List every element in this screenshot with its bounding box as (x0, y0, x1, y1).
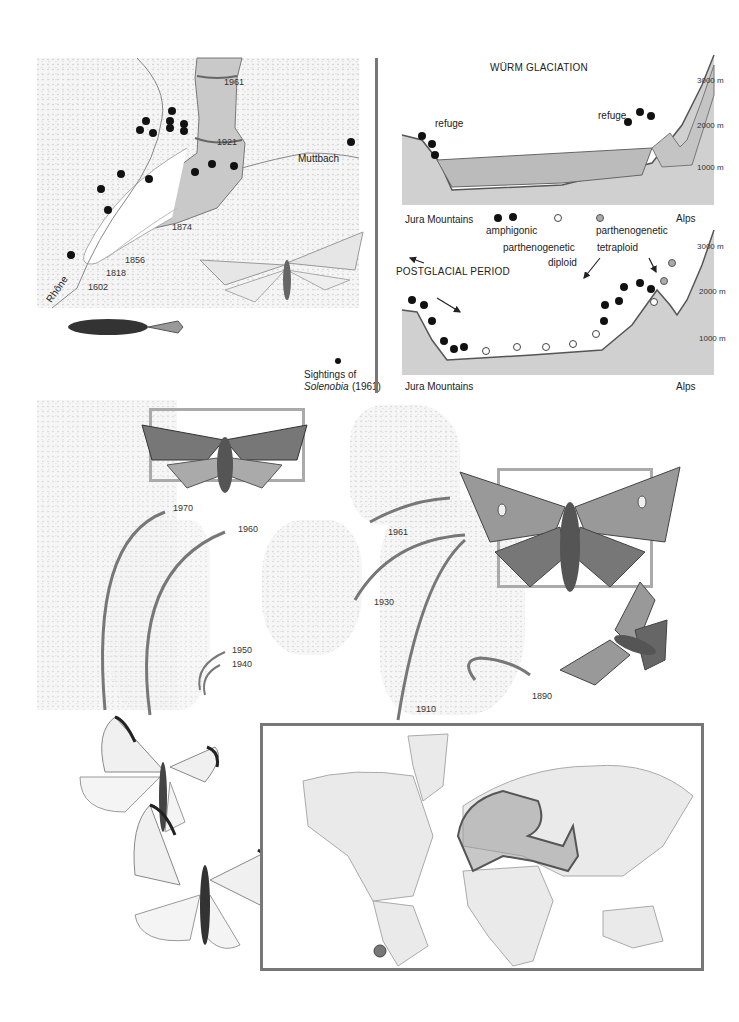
legend-tetraploid-circle (596, 214, 604, 222)
amphigonic-male (408, 296, 416, 304)
tetraploid-circle (660, 277, 668, 285)
britain-year-1890: 1890 (532, 691, 552, 701)
amphigonic-female (601, 301, 609, 309)
wurm-profile (402, 55, 714, 205)
postglacial-tick-1000: 1000 m (699, 334, 726, 343)
amphigonic-female (440, 337, 448, 345)
continent-year-1950: 1950 (232, 645, 252, 655)
glacier-year-1602: 1602 (88, 282, 108, 292)
amphigonic-male (450, 345, 458, 353)
glacier-year-1818: 1818 (106, 268, 126, 278)
wurm-right-region: Alps (676, 213, 695, 224)
legend-amphigonic-female (509, 213, 517, 221)
postglacial-tick-3000: 3000 m (697, 242, 724, 251)
amphigonic-male (428, 317, 436, 325)
postglacial-right-region: Alps (676, 381, 695, 392)
ireland-map (262, 520, 362, 655)
patterned-moth (137, 420, 312, 495)
sighting-dot (166, 124, 174, 132)
britain-year-1930: 1930 (374, 597, 394, 607)
continent-year-1960: 1960 (238, 524, 258, 534)
amphigonic-female (418, 132, 426, 140)
sighting-dot (97, 185, 105, 193)
wurm-tick-1000: 1000 m (697, 163, 724, 172)
wurm-tick-2000: 2000 m (697, 121, 724, 130)
legend-dot (335, 358, 341, 364)
sighting-dot (67, 251, 75, 259)
britain-year-1961: 1961 (388, 527, 408, 537)
postglacial-left-region: Jura Mountains (405, 381, 473, 392)
sighting-dot (145, 175, 153, 183)
refuge-right-label: refuge (598, 110, 626, 121)
diploid-circle (482, 347, 490, 355)
amphigonic-male (428, 140, 436, 148)
sighting-dot (149, 129, 157, 137)
postglacial-profile (402, 230, 714, 375)
postglacial-tick-2000: 2000 m (699, 287, 726, 296)
continent-year-1970: 1970 (173, 503, 193, 513)
diploid-circle (513, 343, 521, 351)
diploid-circle (569, 340, 577, 348)
sighting-dot (142, 117, 150, 125)
amphigonic-male (647, 112, 655, 120)
white-butterfly-2 (120, 795, 280, 955)
amphigonic-male (624, 118, 632, 126)
sighting-dot (347, 138, 355, 146)
sighting-dot (117, 170, 125, 178)
world-map (263, 726, 701, 968)
brown-moth-side (555, 580, 675, 690)
amphigonic-female (431, 151, 439, 159)
stream-label: Muttbach (298, 153, 339, 164)
amphigonic-female (620, 283, 628, 291)
glacier-year-1856: 1856 (125, 255, 145, 265)
sighting-dot (208, 160, 216, 168)
amphigonic-male (636, 279, 644, 287)
legend-line1: Sightings of (304, 369, 356, 380)
sighting-dot (136, 126, 144, 134)
wurm-left-region: Jura Mountains (405, 214, 473, 225)
amphigonic-female (636, 108, 644, 116)
sighting-dot (180, 127, 188, 135)
diploid-circle (542, 343, 550, 351)
glacier-year-1961: 1961 (224, 77, 244, 87)
sighting-dot (191, 168, 199, 176)
panel-divider (375, 58, 378, 393)
legend-diploid-circle (554, 214, 562, 222)
legend-amphigonic-male (494, 214, 502, 222)
continent-spread-arcs (70, 500, 250, 720)
moth-illustration (195, 230, 365, 310)
continent-year-1940: 1940 (232, 659, 252, 669)
britain-year-1910: 1910 (416, 704, 436, 714)
sighting-dot (168, 107, 176, 115)
caterpillar-illustration (68, 315, 188, 340)
amphigonic-male (615, 297, 623, 305)
glacier-year-1874: 1874 (172, 222, 192, 232)
amphigonic-female (420, 301, 428, 309)
sighting-dot (230, 162, 238, 170)
tetraploid-circle (668, 259, 676, 267)
amphigonic-female (460, 343, 468, 351)
wurm-tick-3000: 3000 m (697, 76, 724, 85)
refuge-left-label: refuge (435, 118, 463, 129)
amphigonic-male (600, 317, 608, 325)
diploid-circle (650, 298, 658, 306)
diploid-circle (592, 330, 600, 338)
glacier-year-1921: 1921 (217, 137, 237, 147)
legend-genus: Solenobia (304, 381, 348, 392)
amphigonic-female (647, 285, 655, 293)
sighting-dot (104, 206, 112, 214)
